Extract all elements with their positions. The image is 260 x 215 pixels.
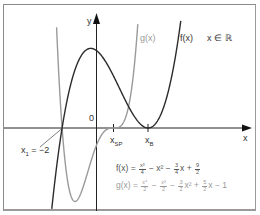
g-term: x − 1 — [208, 180, 227, 190]
den: 2 — [141, 187, 148, 193]
y-axis-label: y — [87, 17, 92, 26]
x1-annotation: x1 = −2 — [21, 146, 49, 157]
g-frac-2: x³2 — [160, 180, 167, 192]
den: 2 — [195, 170, 200, 176]
xsp-annotation: xSP — [110, 136, 123, 147]
g-term: x² + — [184, 180, 201, 190]
g-term: − — [168, 180, 178, 190]
den: 2 — [178, 187, 183, 193]
g-frac-4: 52 — [202, 180, 207, 192]
f-lhs: f(x) = — [116, 163, 138, 173]
f-formula: f(x) = x³4 − x² − 34x + 92 — [116, 163, 201, 175]
den: 4 — [139, 170, 146, 176]
f-term: x + — [180, 163, 194, 173]
f-curve-label: f(x) — [180, 34, 193, 43]
f-term: − x² − — [147, 163, 173, 173]
g-frac-1: x⁴2 — [141, 180, 148, 192]
g-formula: g(x) = x⁴2 − x³2 − 32x² + 52x − 1 — [116, 180, 227, 192]
den: 2 — [202, 187, 207, 193]
g-term: − — [149, 180, 159, 190]
xsp-sub: SP — [115, 141, 123, 147]
xb-annotation: xB — [145, 136, 154, 147]
f-frac-3: 92 — [195, 163, 200, 175]
x-axis-label: x — [243, 134, 248, 143]
den: 2 — [160, 187, 167, 193]
y-axis-arrow-icon — [93, 13, 100, 24]
x1-value: = −2 — [29, 145, 50, 155]
g-curve-label: g(x) — [140, 34, 156, 43]
domain-label: x ∈ ℝ — [207, 34, 232, 43]
den: 4 — [174, 170, 179, 176]
x-axis-arrow-icon — [242, 125, 252, 132]
f-frac-2: 34 — [174, 163, 179, 175]
xb-sub: B — [150, 141, 154, 147]
origin-label: 0 — [89, 114, 94, 123]
g-frac-3: 32 — [178, 180, 183, 192]
g-lhs: g(x) = — [116, 180, 140, 190]
f-frac-1: x³4 — [139, 163, 146, 175]
